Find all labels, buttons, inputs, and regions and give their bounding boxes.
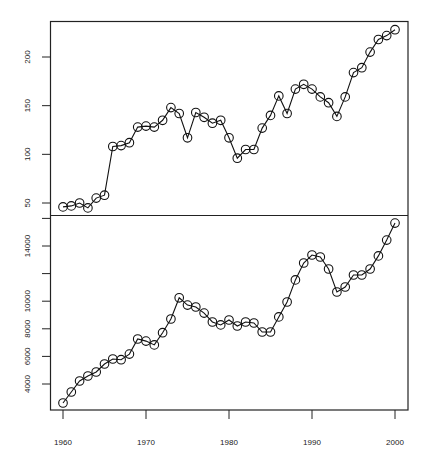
y-tick-label: 6000: [23, 347, 32, 365]
y-tick-label: 10000: [23, 290, 32, 313]
y-tick-label: 14000: [23, 234, 32, 257]
chart-canvas: 50100150200 4000600080001000014000 19601…: [0, 0, 429, 463]
y-tick-label: 100: [23, 147, 32, 161]
x-axis: 19601970198019902000: [54, 410, 404, 447]
y-tick-label: 4000: [23, 375, 32, 393]
stacked-line-chart: 50100150200 4000600080001000014000 19601…: [0, 0, 429, 463]
x-tick-label: 2000: [386, 438, 404, 447]
y-tick-label: 8000: [23, 319, 32, 337]
x-tick-label: 1990: [303, 438, 321, 447]
y-tick-label: 150: [23, 98, 32, 112]
x-tick-label: 1970: [137, 438, 155, 447]
series-line: [63, 30, 395, 208]
y-tick-label: 200: [23, 50, 32, 64]
x-tick-label: 1980: [220, 438, 238, 447]
bottom-panel: 4000600080001000014000: [23, 218, 399, 407]
x-tick-label: 1960: [54, 438, 72, 447]
top-panel: 50100150200: [23, 25, 399, 212]
y-tick-label: 50: [23, 198, 32, 207]
series-line: [63, 223, 395, 403]
